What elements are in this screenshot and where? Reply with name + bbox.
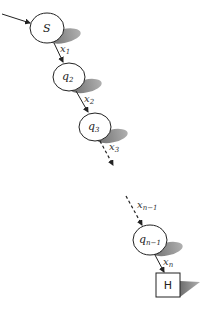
edge-label-xn-1: xn−1 <box>137 199 157 212</box>
edge-start-S <box>2 14 30 23</box>
node-q3: q3 <box>79 113 111 141</box>
edge-label-x3: x3 <box>109 141 120 154</box>
state-chain-diagram: S q2 q3 qn−1 H x1 x2 x3 xn−1 xn <box>0 0 208 315</box>
shadow-H <box>180 281 200 297</box>
edge-label-xn: xn <box>163 256 174 269</box>
node-H-label: H <box>164 279 172 292</box>
node-qn1: qn−1 <box>133 225 167 255</box>
node-S: S <box>30 13 64 43</box>
node-q2: q2 <box>53 63 85 91</box>
node-S-label: S <box>43 22 51 35</box>
edge-label-x1: x1 <box>60 43 70 56</box>
node-H: H <box>156 273 180 297</box>
edge-label-x2: x2 <box>84 93 95 106</box>
